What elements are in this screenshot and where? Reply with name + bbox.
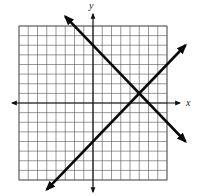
x-axis-label: x <box>185 97 191 108</box>
line-increasing <box>47 45 186 189</box>
coordinate-graph: x y <box>0 0 199 196</box>
y-axis-label: y <box>88 0 94 11</box>
line-decreasing <box>65 16 185 141</box>
